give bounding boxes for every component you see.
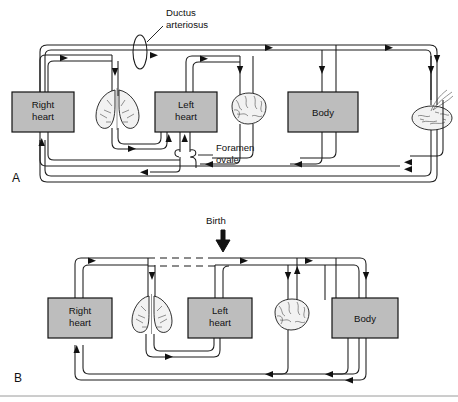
panel-a-letter: A	[12, 171, 20, 185]
panel-a-ductus-label-line2: arteriosus	[166, 19, 208, 30]
panel-a-foramen-label-line1: Foramen	[216, 142, 254, 153]
panel-b-left-heart-label-line2: heart	[209, 317, 231, 328]
figure-background	[0, 0, 458, 402]
panel-b-right-heart-label-line2: heart	[69, 317, 91, 328]
panel-a-foramen-label-line2: ovale	[216, 154, 239, 165]
panel-b-left-heart-label-line1: Left	[212, 305, 228, 316]
panel-b-letter: B	[14, 371, 22, 385]
panel-a-left-heart-label-line1: Left	[178, 99, 194, 110]
panel-a-right-heart-label-line2: heart	[32, 111, 54, 122]
panel-b-brain-icon	[275, 299, 309, 330]
panel-a-brain-icon	[232, 93, 266, 124]
panel-a-body-label: Body	[312, 107, 334, 118]
panel-b-birth-label: Birth	[206, 215, 226, 226]
panel-a-left-heart-label-line2: heart	[175, 111, 197, 122]
circulation-figure: Right heart Ductus arteriosus	[0, 0, 458, 402]
panel-b-right-heart-label-line1: Right	[69, 305, 92, 316]
panel-b-body-label: Body	[354, 313, 376, 324]
panel-a-right-heart-label-line1: Right	[32, 99, 55, 110]
panel-a-ductus-label-line1: Ductus	[166, 7, 196, 18]
